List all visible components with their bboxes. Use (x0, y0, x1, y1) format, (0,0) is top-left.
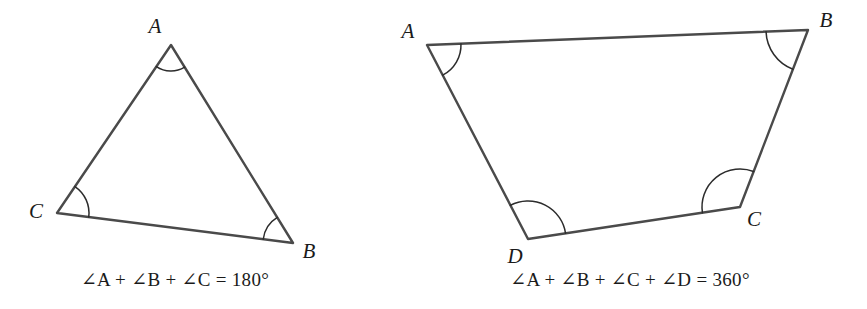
geometry-canvas: A B C A B C D (0, 0, 867, 309)
vertex-label-quad-d: D (506, 244, 522, 268)
angle-sum-figure-board: A B C A B C D ∠A + ∠B + ∠C = 180° ∠A + ∠… (0, 0, 867, 309)
vertex-label-quad-a: A (400, 19, 415, 43)
caption-quadrilateral-angle-sum: ∠A + ∠B + ∠C + ∠D = 360° (420, 268, 840, 291)
angle-arc-quad-d (510, 201, 565, 233)
angle-arc-quad-b (766, 32, 793, 70)
triangle-figure: A B C (29, 14, 316, 263)
vertex-label-triangle-a: A (147, 14, 162, 38)
quadrilateral-figure: A B C D (400, 8, 833, 268)
vertex-label-quad-b: B (820, 8, 833, 32)
vertex-label-quad-c: C (747, 207, 762, 231)
angle-arc-triangle-b (263, 217, 277, 239)
angle-arc-triangle-a (156, 67, 184, 71)
vertex-label-triangle-c: C (29, 199, 44, 223)
triangle-edges (57, 45, 293, 243)
caption-triangle-angle-sum: ∠A + ∠B + ∠C = 180° (0, 268, 350, 291)
angle-arc-quad-a (443, 44, 461, 76)
angle-arc-triangle-c (75, 187, 89, 218)
vertex-label-triangle-b: B (303, 239, 316, 263)
